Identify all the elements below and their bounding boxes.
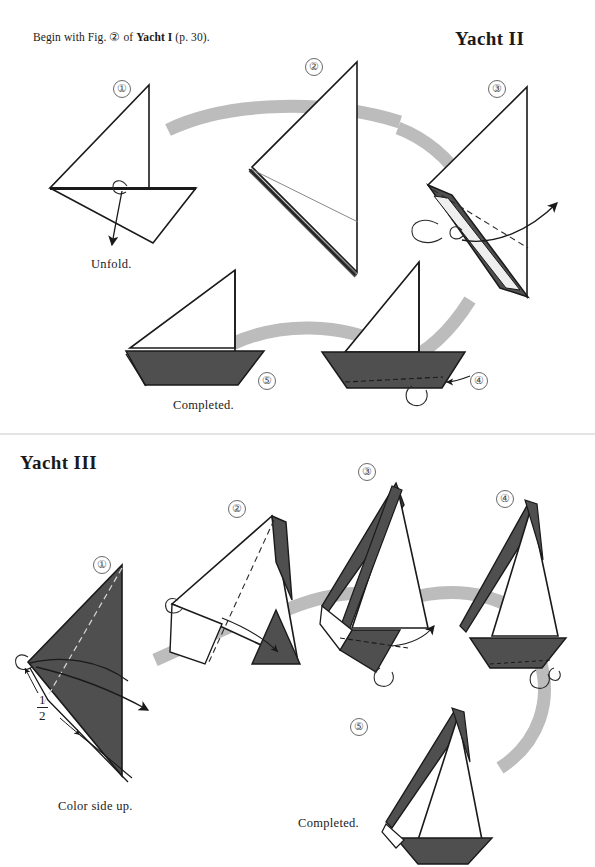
ribbon-arrow-3-4-to-5: [500, 660, 544, 768]
hull-flap-2-1: [50, 188, 196, 243]
turn-loop-2-3: [412, 220, 442, 242]
figure-yacht3-step3: [320, 483, 434, 686]
fold-arrow-3-3: [392, 626, 434, 646]
origami-instruction-page: Begin with Fig. ② of Yacht I (p. 30). Ya…: [0, 0, 595, 867]
figure-yacht3-step5: [382, 708, 492, 864]
figure-yacht3-step1: [16, 565, 148, 782]
hull-color-2-4: [322, 352, 465, 388]
turn-loop-2-4: [406, 386, 427, 406]
sail-white-2-1: [50, 85, 149, 188]
hull-color-3-3: [340, 630, 400, 672]
hull-color-2-5: [126, 351, 264, 385]
figure-yacht2-step3: [412, 87, 557, 297]
hull-color-3-5: [396, 838, 492, 864]
paper-color-3-1: [28, 565, 122, 776]
turn-loop-3-3: [374, 668, 393, 686]
figure-yacht2-step1: [50, 85, 196, 245]
hull-color-3-4: [470, 638, 566, 668]
figure-yacht3-step2: [166, 516, 300, 664]
figure-yacht2-step2: [249, 62, 358, 276]
ribbon-arrow-1-to-2: [168, 106, 400, 130]
turn-loop-small-3-4: [549, 668, 560, 680]
sail-white-2-5: [130, 270, 235, 348]
paper-white-2-2: [252, 62, 357, 272]
figure-yacht2-step5: [126, 270, 264, 386]
origami-diagrams: [0, 0, 595, 867]
